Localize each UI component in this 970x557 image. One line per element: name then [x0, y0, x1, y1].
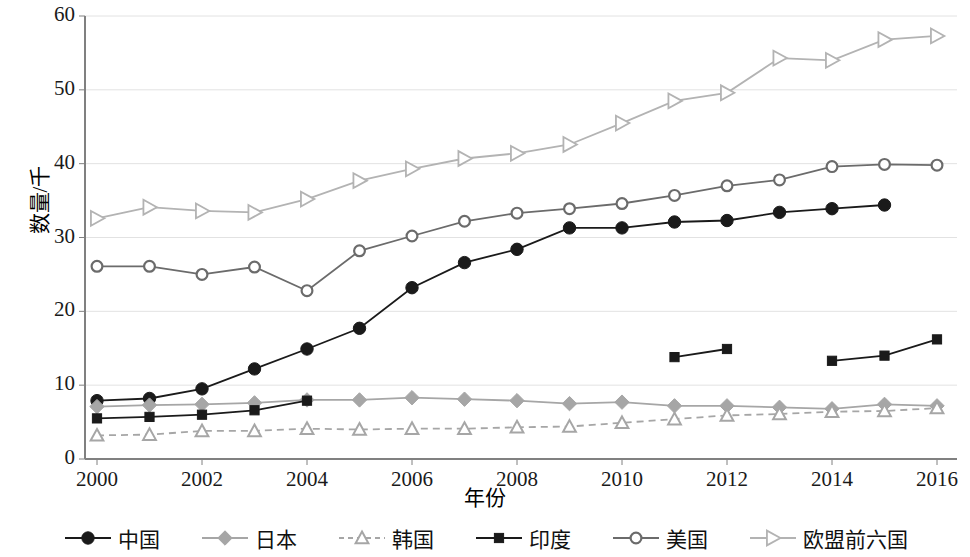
data-point — [248, 363, 260, 375]
data-point — [197, 410, 206, 419]
y-tick-label: 20 — [31, 297, 75, 322]
data-point — [616, 116, 629, 131]
legend-item-1[interactable]: 中国 — [63, 523, 160, 553]
legend-label: 欧盟前六国 — [803, 523, 908, 553]
gridlines — [85, 16, 957, 385]
data-point — [670, 353, 679, 362]
data-point — [827, 161, 838, 172]
data-point — [81, 532, 93, 544]
data-point — [195, 397, 209, 411]
x-tick-label: 2014 — [797, 467, 867, 492]
data-point — [92, 414, 101, 423]
legend-marker-icon — [63, 527, 113, 549]
legend-item-3[interactable]: 韩国 — [337, 523, 434, 553]
legend-label: 中国 — [118, 523, 160, 553]
chart-legend: 中国日本韩国印度美国欧盟前六国 — [0, 519, 970, 557]
legend-marker-icon — [748, 527, 798, 549]
data-point — [353, 322, 365, 334]
x-tick-label: 2004 — [272, 467, 342, 492]
series-4 — [92, 335, 941, 423]
data-point — [511, 146, 524, 161]
data-point — [301, 192, 314, 207]
data-point — [459, 216, 470, 227]
data-point — [91, 211, 104, 226]
series-line — [97, 205, 885, 401]
legend-marker-icon — [200, 527, 250, 549]
data-point — [722, 344, 731, 353]
x-tick-label: 2010 — [587, 467, 657, 492]
data-point — [196, 383, 208, 395]
data-point — [301, 343, 313, 355]
data-point — [511, 243, 523, 255]
series-5 — [92, 159, 943, 296]
data-point — [826, 53, 839, 68]
data-point — [352, 393, 366, 407]
data-point — [615, 395, 629, 409]
series-line — [97, 36, 937, 218]
series-2 — [90, 391, 944, 416]
data-point — [932, 335, 941, 344]
y-tick-label: 40 — [31, 150, 75, 175]
data-point — [457, 392, 471, 406]
data-point — [92, 261, 103, 272]
y-tick-label: 30 — [31, 224, 75, 249]
data-point — [250, 406, 259, 415]
legend-item-2[interactable]: 日本 — [200, 523, 297, 553]
data-point — [248, 205, 261, 220]
data-point — [721, 85, 734, 100]
data-point — [563, 137, 576, 152]
legend-item-6[interactable]: 欧盟前六国 — [748, 523, 908, 553]
data-point — [302, 285, 313, 296]
data-point — [774, 175, 785, 186]
data-point — [931, 29, 944, 44]
x-tick-label: 2000 — [62, 467, 132, 492]
data-point — [668, 94, 681, 109]
data-point — [722, 180, 733, 191]
data-point — [932, 160, 943, 171]
legend-label: 韩国 — [392, 523, 434, 553]
data-point — [494, 533, 503, 542]
legend-label: 日本 — [255, 523, 297, 553]
legend-item-4[interactable]: 印度 — [474, 523, 571, 553]
data-point — [354, 245, 365, 256]
data-point — [827, 356, 836, 365]
data-point — [562, 396, 576, 410]
x-tick-label: 2002 — [167, 467, 237, 492]
data-point — [406, 282, 418, 294]
data-point — [879, 159, 890, 170]
series-1 — [91, 199, 891, 407]
legend-marker-icon — [337, 527, 387, 549]
y-tick-label: 10 — [31, 371, 75, 396]
data-point — [197, 269, 208, 280]
data-point — [353, 173, 366, 188]
legend-label: 印度 — [529, 523, 571, 553]
data-point — [302, 396, 311, 405]
data-point — [407, 231, 418, 242]
data-point — [617, 198, 628, 209]
series-layer — [90, 29, 945, 441]
data-point — [721, 214, 733, 226]
data-point — [144, 261, 155, 272]
data-point — [773, 51, 786, 66]
data-point — [217, 531, 231, 545]
x-tick-label: 2008 — [482, 467, 552, 492]
y-tick-label: 50 — [31, 76, 75, 101]
data-point — [616, 222, 628, 234]
data-point — [826, 203, 838, 215]
data-point — [145, 412, 154, 421]
legend-label: 美国 — [666, 523, 708, 553]
data-point — [512, 208, 523, 219]
x-tick-label: 2012 — [692, 467, 762, 492]
data-point — [510, 393, 524, 407]
data-point — [669, 190, 680, 201]
data-point — [405, 391, 419, 405]
data-point — [766, 531, 779, 546]
series-line — [97, 164, 937, 290]
legend-marker-icon — [611, 527, 661, 549]
legend-item-5[interactable]: 美国 — [611, 523, 708, 553]
data-point — [143, 200, 156, 215]
data-point — [563, 222, 575, 234]
legend-marker-icon — [474, 527, 524, 549]
data-point — [564, 203, 575, 214]
series-6 — [91, 29, 944, 226]
